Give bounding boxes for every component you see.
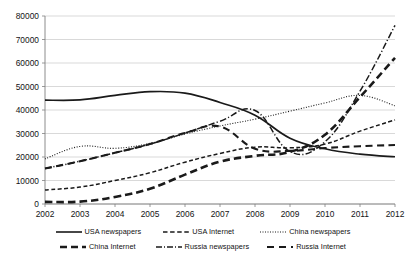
legend-label-russia-internet: Russia Internet (296, 242, 346, 251)
x-axis-tick-label: 2008 (246, 209, 265, 219)
legend-item-usa-newspapers: USA newspapers (56, 227, 142, 237)
plot-area: 0100002000030000400005000060000700008000… (0, 0, 406, 222)
x-axis-tick-label: 2004 (106, 209, 125, 219)
legend-label-russia-newspapers: Russia newspapers (185, 242, 250, 251)
legend-label-china-newspapers: China newspapers (289, 227, 350, 236)
line-chart: 0100002000030000400005000060000700008000… (0, 0, 406, 269)
legend-key-china-internet (60, 242, 86, 252)
y-axis-tick-label: 70000 (16, 35, 40, 45)
x-axis-tick-label: 2012 (386, 209, 405, 219)
legend-item-china-newspapers: China newspapers (260, 227, 350, 237)
x-axis-tick-label: 2003 (71, 209, 90, 219)
legend-label-china-internet: China Internet (89, 242, 136, 251)
x-axis-tick-label: 2007 (211, 209, 230, 219)
series-line-usa-internet (45, 120, 395, 190)
legend-key-usa-newspapers (56, 227, 82, 237)
legend-label-usa-internet: USA Internet (192, 227, 234, 236)
legend-item-russia-internet: Russia Internet (267, 242, 346, 252)
chart-legend: USA newspapers USA Internet China newspa… (0, 224, 406, 269)
chart-canvas: 0100002000030000400005000060000700008000… (0, 0, 406, 222)
y-axis-tick-label: 60000 (16, 58, 40, 68)
y-axis-tick-label: 10000 (16, 176, 40, 186)
y-axis-tick-label: 40000 (16, 105, 40, 115)
y-axis-tick-label: 50000 (16, 82, 40, 92)
y-axis-tick-label: 80000 (16, 11, 40, 21)
x-axis-tick-label: 2010 (316, 209, 335, 219)
legend-row-1: USA newspapers USA Internet China newspa… (0, 224, 406, 239)
legend-item-usa-internet: USA Internet (163, 227, 234, 237)
x-axis-tick-label: 2006 (176, 209, 195, 219)
y-axis-tick-label: 20000 (16, 152, 40, 162)
legend-key-russia-internet (267, 242, 293, 252)
x-axis-tick-label: 2005 (141, 209, 160, 219)
legend-label-usa-newspapers: USA newspapers (85, 227, 142, 236)
legend-row-2: China Internet Russia newspapers Russia … (0, 239, 406, 254)
legend-key-china-newspapers (260, 227, 286, 237)
legend-item-russia-newspapers: Russia newspapers (156, 242, 250, 252)
legend-key-usa-internet (163, 227, 189, 237)
x-axis-tick-label: 2009 (281, 209, 300, 219)
x-axis-tick-label: 2002 (36, 209, 55, 219)
legend-item-china-internet: China Internet (60, 242, 136, 252)
legend-key-russia-newspapers (156, 242, 182, 252)
series-line-china-newspapers (45, 95, 395, 158)
x-axis-tick-label: 2011 (351, 209, 369, 219)
y-axis-tick-label: 30000 (16, 129, 40, 139)
